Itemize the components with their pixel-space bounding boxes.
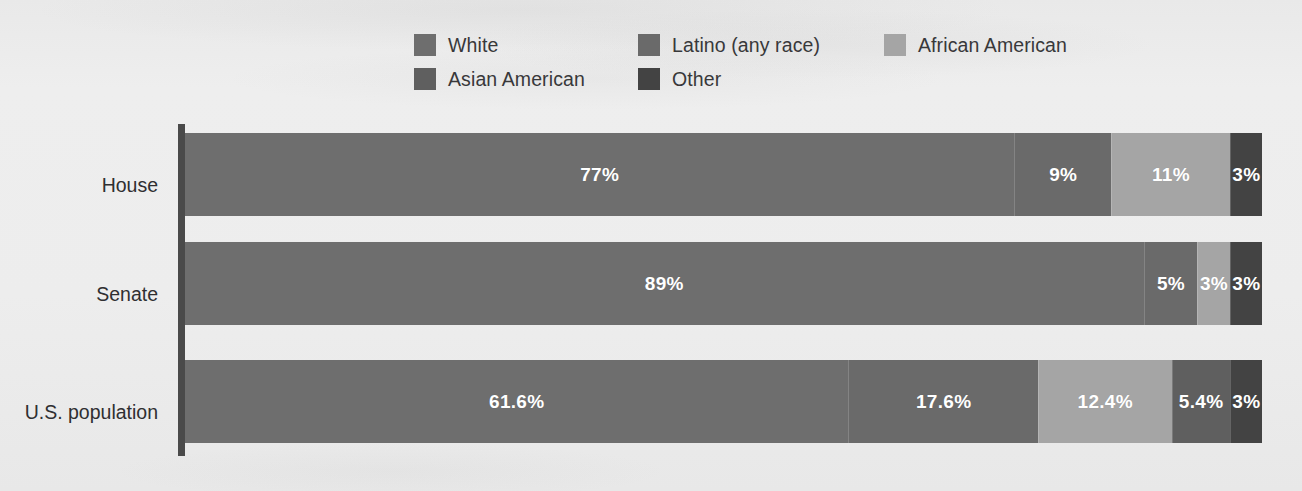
bar-segment-value-label: 61.6% <box>489 391 544 413</box>
stacked-bar-chart: WhiteLatino (any race)African AmericanAs… <box>0 0 1302 491</box>
bar-segment-value-label: 3% <box>1232 164 1260 186</box>
bar-segment-value-label: 9% <box>1049 164 1077 186</box>
legend-item-african-american: African American <box>884 34 1067 57</box>
legend-swatch-icon <box>638 34 660 56</box>
y-axis-category-label: U.S. population <box>25 401 158 424</box>
legend-item-latino-any-race: Latino (any race) <box>638 34 884 57</box>
bar-segment-value-label: 12.4% <box>1078 391 1133 413</box>
legend-item-asian-american: Asian American <box>414 68 638 91</box>
y-axis-line <box>178 124 185 456</box>
bar-segment: 3% <box>1230 242 1262 325</box>
bar-row: 61.6%17.6%12.4%5.4%3% <box>185 360 1262 443</box>
legend-item-label: Other <box>672 68 721 91</box>
bar-segment: 61.6% <box>185 360 848 443</box>
bar-segment-value-label: 5.4% <box>1179 391 1224 413</box>
legend-item-other: Other <box>638 68 884 91</box>
bar-segment: 3% <box>1197 242 1229 325</box>
bar-segment: 17.6% <box>848 360 1038 443</box>
bar-segment-value-label: 3% <box>1232 273 1260 295</box>
bar-segment-value-label: 17.6% <box>916 391 971 413</box>
chart-legend: WhiteLatino (any race)African AmericanAs… <box>414 28 1067 96</box>
chart-plot-area: 77%9%11%3%89%5%3%3%61.6%17.6%12.4%5.4%3%… <box>178 124 1262 456</box>
bar-segment: 12.4% <box>1038 360 1172 443</box>
bar-segment: 77% <box>185 133 1014 216</box>
legend-item-white: White <box>414 34 638 57</box>
legend-item-label: Asian American <box>448 68 585 91</box>
legend-item-label: White <box>448 34 498 57</box>
bar-segment-value-label: 11% <box>1152 164 1190 186</box>
bar-row: 77%9%11%3% <box>185 133 1262 216</box>
bar-row: 89%5%3%3% <box>185 242 1262 325</box>
bar-segment: 3% <box>1230 133 1262 216</box>
legend-swatch-icon <box>638 68 660 90</box>
y-axis-category-label: House <box>102 174 158 197</box>
bar-segment-value-label: 3% <box>1232 391 1260 413</box>
bar-segment: 3% <box>1230 360 1262 443</box>
bar-segment: 11% <box>1111 133 1229 216</box>
y-axis-category-label: Senate <box>96 283 158 306</box>
legend-item-label: African American <box>918 34 1067 57</box>
bar-segment: 5% <box>1144 242 1198 325</box>
legend-swatch-icon <box>414 68 436 90</box>
bar-segment-value-label: 77% <box>580 164 619 186</box>
bar-segment-value-label: 89% <box>645 273 684 295</box>
bar-segment-value-label: 3% <box>1200 273 1228 295</box>
legend-swatch-icon <box>414 34 436 56</box>
legend-swatch-icon <box>884 34 906 56</box>
bar-segment: 5.4% <box>1172 360 1230 443</box>
bar-segment: 89% <box>185 242 1144 325</box>
bar-segment-value-label: 5% <box>1157 273 1185 295</box>
bar-segment: 9% <box>1014 133 1111 216</box>
legend-item-label: Latino (any race) <box>672 34 820 57</box>
